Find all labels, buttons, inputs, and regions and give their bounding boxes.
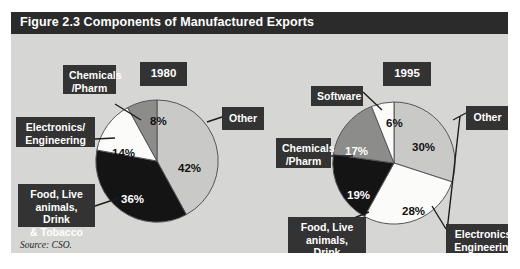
figure-title: Figure 2.3 Components of Manufactured Ex… [20, 15, 314, 29]
pie-chart-1995: 1995 Software Chemicals /Pharm Food, Liv… [269, 34, 508, 253]
pct-electronics-1980: 14% [112, 147, 135, 159]
callout-food-1995: Food, Live animals, Drink & Tobacco [288, 217, 366, 253]
pct-chemicals-1980: 8% [150, 115, 167, 127]
callout-chemicals-1995: Chemicals /Pharm [276, 138, 331, 168]
pct-software-1995: 6% [386, 117, 403, 129]
year-badge-1995: 1995 [383, 62, 431, 86]
pct-other-1980: 42% [178, 162, 201, 174]
figure-panel: Figure 2.3 Components of Manufactured Ex… [11, 12, 508, 253]
callout-software-1995: Software [311, 86, 363, 106]
callout-chemicals-1980: Chemicals /Pharm [63, 65, 116, 94]
year-badge-1980: 1980 [140, 62, 187, 86]
callout-food-1980: Food, Live animals, Drink & Tobacco [18, 184, 95, 227]
pct-electronics-1995: 28% [402, 205, 425, 217]
pct-chemicals-1995: 17% [345, 145, 368, 157]
source-note: Source: CSO. [20, 240, 72, 250]
pct-food-1980: 36% [121, 193, 144, 205]
callout-electronics-1995: Electronics/ Engineering [446, 224, 508, 253]
pct-food-1995: 19% [347, 189, 370, 201]
callout-electronics-1980: Electronics/ Engineering [16, 117, 95, 147]
callout-other-1995: Other [466, 106, 508, 130]
figure-title-bar: Figure 2.3 Components of Manufactured Ex… [11, 12, 508, 34]
pct-other-1995: 30% [412, 141, 435, 153]
callout-other-1980: Other [222, 107, 264, 130]
pie-chart-1980: 1980 Chemicals /Pharm Electronics/ Engin… [11, 34, 269, 253]
